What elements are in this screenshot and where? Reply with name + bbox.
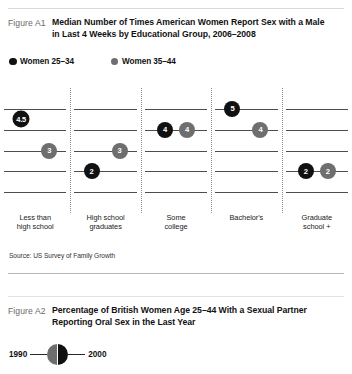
gridline: [4, 192, 66, 193]
top-divider: [8, 8, 344, 9]
panel-divider: [211, 88, 212, 213]
category-label: High schoolgraduates: [70, 213, 140, 232]
gridline: [215, 151, 277, 152]
chart-category-axis: Less thanhigh schoolHigh schoolgraduates…: [0, 213, 352, 243]
panel-divider: [141, 88, 142, 213]
gridline: [286, 151, 348, 152]
figure-a1-title-line2: in Last 4 Weeks by Educational Group, 20…: [52, 29, 325, 41]
gridline: [145, 109, 207, 110]
gridline: [4, 130, 66, 131]
legend-label-women-25-34: Women 25–34: [20, 57, 74, 66]
category-label: Less thanhigh school: [0, 213, 70, 232]
data-point: 4: [179, 122, 195, 138]
legend-item-women-35-44: Women 35–44: [111, 57, 176, 66]
category-label-line2: school +: [282, 222, 352, 231]
gridline: [286, 130, 348, 131]
gridline: [74, 192, 136, 193]
figure-a2-heading: Figure A2 Percentage of British Women Ag…: [8, 305, 344, 328]
legend-label-women-35-44: Women 35–44: [122, 57, 176, 66]
gridline: [145, 130, 207, 131]
category-label-line2: college: [141, 222, 211, 231]
figure-a2-legend: 1990 2000: [9, 344, 106, 365]
category-label-line1: High school: [87, 213, 125, 222]
data-point: 3: [112, 143, 128, 159]
figure-a2-title-line1: Percentage of British Women Age 25–44 Wi…: [52, 305, 307, 315]
figure-a1-title-line1: Median Number of Times American Women Re…: [52, 17, 325, 27]
figure-a2-legend-label-1990: 1990: [9, 350, 27, 359]
category-label: Graduateschool +: [282, 213, 352, 232]
figure-a2-legend-label-2000: 2000: [88, 350, 106, 359]
data-point: 2: [320, 163, 336, 179]
gridline: [215, 171, 277, 172]
category-label-line1: Less than: [19, 213, 51, 222]
gridline: [4, 109, 66, 110]
figure-a2-title: Percentage of British Women Age 25–44 Wi…: [52, 305, 307, 328]
gridline: [145, 171, 207, 172]
category-label: Bachelor's: [211, 213, 281, 222]
figure-a2-top-rule: [8, 296, 344, 297]
category-label-line2: high school: [0, 222, 70, 231]
figure-a1-title: Median Number of Times American Women Re…: [52, 17, 325, 40]
data-point: 4.5: [13, 111, 30, 128]
gridline: [145, 192, 207, 193]
panel-divider: [282, 88, 283, 213]
figure-a2-number: Figure A2: [8, 305, 52, 316]
gridline: [286, 109, 348, 110]
split-circle-right-half: [58, 344, 69, 365]
chart-plot-area: 4.5323445422: [0, 88, 352, 213]
gridline: [286, 192, 348, 193]
legend-item-women-25-34: Women 25–34: [9, 57, 74, 66]
legend-dot-icon-women-35-44: [111, 58, 119, 66]
data-point: 3: [41, 143, 57, 159]
split-circle-seam: [57, 344, 58, 365]
figure-a1-source: Source: US Survey of Family Growth: [9, 252, 115, 259]
figure-separator-rule: [8, 273, 344, 274]
gridline: [215, 192, 277, 193]
gridline: [286, 171, 348, 172]
data-point: 2: [298, 163, 314, 179]
gridline: [74, 109, 136, 110]
figure-a1-legend: Women 25–34 Women 35–44: [9, 57, 176, 66]
category-label-line1: Bachelor's: [229, 213, 263, 222]
figure-a1-number: Figure A1: [8, 17, 52, 28]
figure-a1-heading: Figure A1 Median Number of Times America…: [8, 17, 344, 40]
gridline: [4, 171, 66, 172]
data-point: 2: [84, 163, 100, 179]
gridline: [145, 151, 207, 152]
figure-a2-title-line2: Reporting Oral Sex in the Last Year: [52, 317, 307, 329]
gridline: [74, 130, 136, 131]
data-point: 4: [252, 122, 268, 138]
category-label-line1: Some: [166, 213, 185, 222]
data-point: 5: [224, 101, 240, 117]
data-point: 4: [157, 122, 173, 138]
figure-a2-legend-connector-left: [30, 354, 47, 356]
split-circle-icon: [47, 344, 68, 365]
category-label-line2: graduates: [70, 222, 140, 231]
category-label: Somecollege: [141, 213, 211, 232]
figure-a2-legend-connector-right: [68, 354, 85, 356]
category-label-line1: Graduate: [302, 213, 332, 222]
figure-page: Figure A1 Median Number of Times America…: [0, 0, 352, 374]
panel-divider: [70, 88, 71, 213]
legend-dot-icon-women-25-34: [9, 58, 17, 66]
